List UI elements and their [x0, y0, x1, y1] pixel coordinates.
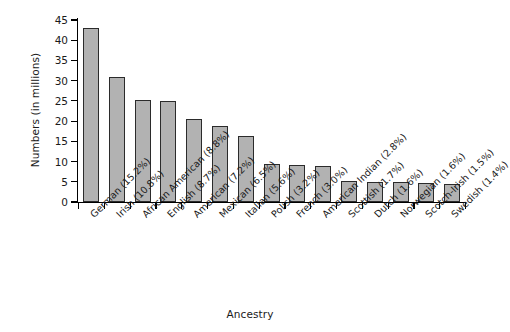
y-tick-label: 35: [22, 54, 68, 66]
y-tick-label: 5: [22, 176, 68, 188]
y-tick-mark: [71, 161, 77, 162]
y-tick-mark: [71, 60, 77, 61]
y-tick-label: 20: [22, 115, 68, 127]
y-tick-label: 25: [22, 95, 68, 107]
y-tick-mark: [71, 181, 77, 182]
y-tick-label: 0: [22, 196, 68, 208]
x-axis-label: Ancestry: [180, 308, 320, 320]
y-tick-label: 40: [22, 34, 68, 46]
y-tick-mark: [71, 40, 77, 41]
y-tick-label: 45: [22, 14, 68, 26]
y-axis-line: [77, 18, 78, 203]
y-tick-label: 30: [22, 75, 68, 87]
y-tick-mark: [71, 121, 77, 122]
y-tick-mark: [71, 19, 77, 20]
x-tick-mark: [78, 203, 79, 209]
y-tick-mark: [71, 141, 77, 142]
y-tick-label: 15: [22, 135, 68, 147]
y-tick-mark: [71, 201, 77, 202]
y-tick-label: 10: [22, 156, 68, 168]
y-tick-mark: [71, 100, 77, 101]
bar: [83, 28, 99, 202]
y-tick-mark: [71, 80, 77, 81]
